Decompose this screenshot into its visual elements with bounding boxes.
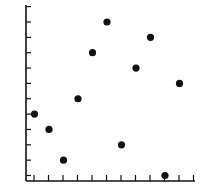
- data-point: [132, 64, 139, 71]
- data-point: [118, 141, 125, 148]
- data-point: [74, 95, 81, 102]
- data-point: [89, 49, 96, 56]
- x-axis-ticks: [34, 175, 194, 181]
- data-point: [31, 111, 38, 118]
- data-point: [161, 172, 168, 179]
- data-points: [31, 18, 183, 179]
- data-point: [103, 18, 110, 25]
- data-point: [45, 126, 52, 133]
- data-point: [60, 157, 67, 164]
- data-point: [147, 34, 154, 41]
- data-point: [176, 80, 183, 87]
- scatter-plot: [0, 0, 207, 188]
- axes: [26, 5, 195, 181]
